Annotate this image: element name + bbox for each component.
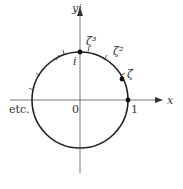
unit-circle-diagram bbox=[0, 0, 183, 189]
point-one bbox=[126, 98, 131, 103]
point-zeta-label: ζ bbox=[127, 69, 133, 80]
etc-label: etc. bbox=[9, 104, 30, 115]
x-axis-arrow-icon bbox=[155, 97, 163, 103]
point-i-label: i bbox=[73, 56, 77, 67]
point-zeta2-label: ζ² bbox=[113, 46, 123, 57]
origin-label: 0 bbox=[72, 104, 79, 115]
x-axis-label: x bbox=[167, 95, 173, 106]
point-one-label: 1 bbox=[131, 104, 138, 115]
point-zeta3-label: ζ³ bbox=[86, 36, 96, 47]
point-zeta bbox=[120, 77, 125, 82]
point-i bbox=[78, 50, 83, 55]
y-axis-label: yi bbox=[72, 3, 82, 14]
